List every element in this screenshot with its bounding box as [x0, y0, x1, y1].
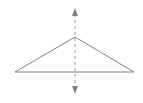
geometry-figure-canvas	[0, 0, 143, 103]
geometry-figure-svg	[0, 0, 143, 103]
arrowhead-up-icon	[72, 8, 78, 16]
triangle-shape	[15, 37, 134, 72]
arrowhead-down-icon	[72, 86, 78, 94]
